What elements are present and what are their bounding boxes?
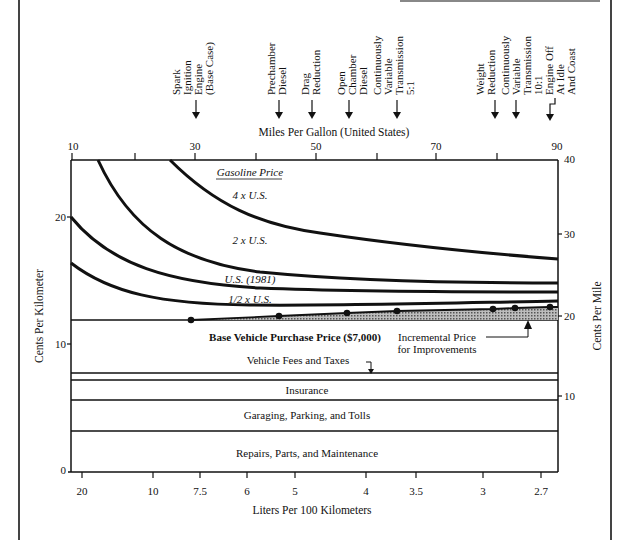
- left-axis-title: Cents Per Kilometer: [33, 269, 45, 363]
- svg-text:Reduction: Reduction: [485, 49, 497, 95]
- annotation-prechamber-diesel: Prechamber Diesel: [265, 42, 288, 119]
- band-labels: Base Vehicle Purchase Price ($7,000) Veh…: [209, 331, 381, 459]
- right-tick-40: 40: [564, 153, 576, 165]
- svg-text:3: 3: [480, 485, 486, 497]
- top-tick-30: 30: [190, 140, 202, 152]
- left-tick-0: 0: [61, 464, 67, 476]
- left-tick-10: 10: [55, 338, 67, 350]
- top-axis-title: Miles Per Gallon (United States): [259, 126, 410, 139]
- top-tick-70: 70: [431, 140, 443, 152]
- left-tick-20: 20: [55, 211, 67, 223]
- svg-text:2.7: 2.7: [534, 485, 548, 497]
- label-base-vehicle: Base Vehicle Purchase Price ($7,000): [209, 331, 381, 344]
- annotation-cvt-10-1: Continuously Variable Transmission 10:1: [499, 35, 544, 119]
- right-tick-20: 20: [564, 310, 576, 322]
- right-tick-10: 10: [564, 390, 576, 402]
- improvement-annotations: Spark Ignition Engine (Base Case) Precha…: [170, 35, 577, 121]
- top-tick-50: 50: [311, 140, 323, 152]
- svg-text:Incremental Price: Incremental Price: [398, 331, 476, 343]
- svg-text:And Coast: And Coast: [565, 48, 577, 95]
- annotation-drag-reduction: Drag Reduction: [299, 49, 322, 119]
- top-tick-10: 10: [68, 140, 80, 152]
- svg-text:10: 10: [148, 485, 160, 497]
- svg-text:(Base Case): (Base Case): [203, 42, 216, 95]
- svg-text:for Improvements: for Improvements: [397, 343, 476, 355]
- svg-text:20: 20: [77, 485, 89, 497]
- label-us-1981: U.S. (1981): [224, 273, 275, 286]
- annotation-weight-reduction: Weight Reduction: [474, 49, 499, 119]
- svg-text:3.5: 3.5: [409, 485, 423, 497]
- right-tick-30: 30: [564, 228, 576, 240]
- svg-text:4: 4: [363, 485, 369, 497]
- label-half-us: 1/2 x U.S.: [228, 293, 271, 305]
- label-garaging: Garaging, Parking, and Tolls: [244, 409, 370, 421]
- top-axis: 10 30 50 70 90 Miles Per Gallon (United …: [68, 126, 564, 160]
- svg-text:Diesel: Diesel: [276, 67, 288, 95]
- label-4x-us: 4 x U.S.: [233, 189, 268, 201]
- fuel-economy-chart: 10 30 50 70 90 Miles Per Gallon (United …: [0, 0, 628, 540]
- annotation-engine-off: Engine Off At Idle And Coast: [543, 46, 577, 121]
- bottom-axis-title: Liters Per 100 Kilometers: [252, 504, 372, 516]
- annotation-spark-ignition: Spark Ignition Engine (Base Case): [170, 42, 216, 119]
- label-vehicle-fees: Vehicle Fees and Taxes: [247, 354, 350, 366]
- label-repairs: Repairs, Parts, and Maintenance: [236, 447, 378, 459]
- annotation-cvt-5-1: Continuously Variable Transmission 5:1: [371, 35, 416, 119]
- annotation-open-chamber-diesel: Open Chamber Diesel: [335, 54, 369, 119]
- label-insurance: Insurance: [286, 384, 329, 396]
- svg-text:5: 5: [292, 485, 298, 497]
- bottom-axis: 20 10 7.5 6 5 4 3.5 3 2.7 Liters Per 100…: [77, 472, 549, 516]
- svg-text:5:1: 5:1: [404, 81, 416, 95]
- svg-text:Reduction: Reduction: [310, 49, 322, 95]
- svg-text:6: 6: [244, 485, 250, 497]
- gasoline-curves: [71, 160, 558, 305]
- left-axis: 20 10 0 Cents Per Kilometer: [33, 211, 71, 476]
- curve-2x-us: [98, 160, 558, 283]
- label-2x-us: 2 x U.S.: [233, 234, 268, 246]
- gasoline-price-header: Gasoline Price: [217, 166, 283, 178]
- right-axis-title: Cents Per Mile: [591, 282, 603, 351]
- svg-text:Diesel: Diesel: [357, 67, 369, 95]
- right-axis: 40 30 20 10 Cents Per Mile: [558, 153, 603, 402]
- svg-text:7.5: 7.5: [193, 485, 207, 497]
- incremental-price-label: Incremental Price for Improvements: [397, 320, 532, 355]
- top-tick-90: 90: [552, 140, 564, 152]
- curve-labels: Gasoline Price 4 x U.S. 2 x U.S. U.S. (1…: [216, 166, 283, 305]
- curve-us-1981: [71, 217, 558, 292]
